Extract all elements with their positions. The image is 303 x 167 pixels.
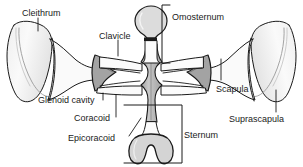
left-coracoid-top-edge [100,81,140,86]
omosternum-stem [142,41,160,63]
left-suprascapula-outline [7,21,52,102]
left-coracoid-outline [97,86,142,95]
label-cleithrum: Cleithrum [22,8,61,18]
label-coracoid: Coracoid [74,113,110,123]
label-epicoracoid: Epicoracoid [68,133,115,143]
label-suprascapula: Suprascapula [229,114,284,124]
label-glenoid-cavity: Glenoid cavity [38,95,95,105]
right-coracoid-top-edge [163,81,203,86]
label-scapula: Scapula [216,84,249,94]
pectoral-girdle-illustration [0,0,303,167]
leader-epicoracoid [129,118,141,136]
label-sternum: Sternum [184,130,218,140]
label-omosternum: Omosternum [172,12,224,22]
right-coracoid-outline [161,86,206,95]
sternum-stalk [142,122,160,135]
diagram-canvas: Cleithrum Clavicle Omosternum Scapula Su… [0,0,303,167]
omosternum-dark-band [144,38,157,42]
right-suprascapula-outline [251,21,296,102]
label-clavicle: Clavicle [99,31,131,41]
